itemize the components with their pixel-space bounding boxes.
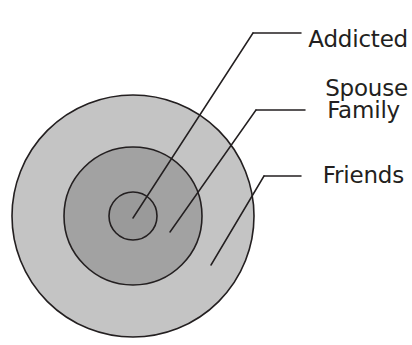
label-addicted-spouse-line1: Addicted (308, 26, 408, 52)
concentric-circles-diagram: Addicted Spouse Family Friends (0, 0, 412, 345)
ring-addicted-spouse (109, 192, 157, 240)
label-friends: Friends (323, 163, 404, 188)
label-family: Family (327, 98, 400, 123)
label-addicted-spouse: Addicted Spouse (280, 2, 408, 151)
